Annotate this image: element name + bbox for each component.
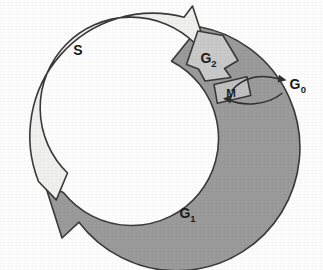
g1-phase-band[interactable] (45, 27, 300, 270)
g0-state-label-subscript: 0 (301, 84, 306, 95)
g2-phase-label-subscript: 2 (211, 58, 216, 69)
g1-phase-label-subscript: 1 (190, 213, 196, 224)
m-phase-label: M (226, 87, 236, 99)
cell-cycle-diagram: S G 2 M G 1 G 0 (0, 0, 323, 270)
g1-phase-label: G (180, 205, 191, 221)
s-phase-band[interactable] (30, 6, 207, 200)
g2-phase-label: G (201, 50, 212, 66)
cell-cycle-diagram-canvas: S G 2 M G 1 G 0 (0, 0, 323, 270)
g0-state-label-group: G 0 (290, 76, 307, 95)
s-phase-label: S (73, 42, 82, 58)
g0-state-label: G (290, 76, 301, 92)
